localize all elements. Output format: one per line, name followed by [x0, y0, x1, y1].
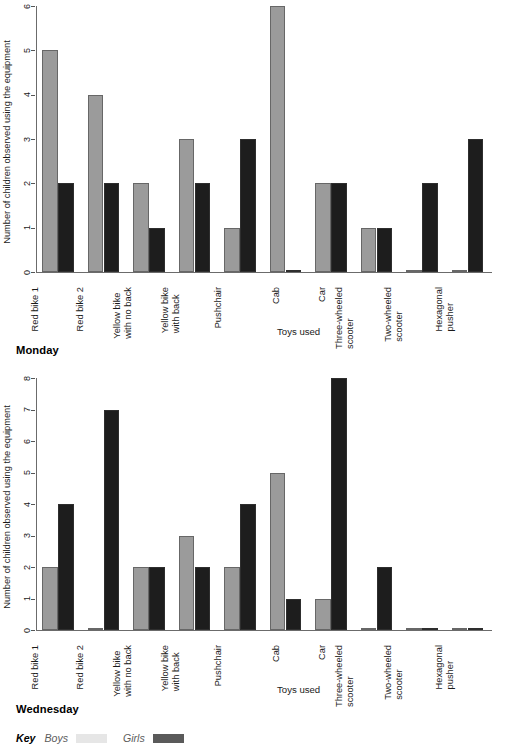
x-category-label-line: Yellow bike: [111, 287, 122, 339]
y-tick-mark: [31, 473, 35, 474]
bar-boys: [224, 228, 240, 272]
bar-girls: [286, 270, 302, 272]
x-category-label-line: Car: [317, 645, 328, 660]
legend-swatch-girls: [153, 734, 184, 743]
legend-item-boys: Boys: [44, 732, 107, 744]
x-category-label-line: Hexagonal: [434, 645, 445, 689]
bar-group: [133, 378, 165, 630]
y-tick-mark: [31, 536, 35, 537]
bar-group: [406, 6, 438, 272]
bar-group: [224, 6, 256, 272]
day-label-wednesday: Wednesday: [16, 703, 79, 715]
x-axis-title-monday: Toys used: [277, 326, 320, 337]
bar-boys: [361, 228, 377, 272]
legend-label-girls: Girls: [123, 732, 145, 744]
y-tick-mark: [31, 410, 35, 411]
bar-boys: [452, 270, 468, 272]
y-tick-mark: [31, 95, 35, 96]
day-label-monday: Monday: [16, 344, 59, 356]
bar-group: [179, 378, 211, 630]
bar-group: [179, 6, 211, 272]
bar-girls: [149, 228, 165, 272]
bar-group: [88, 378, 120, 630]
bar-girls: [422, 183, 438, 272]
chart-monday: Number of children observed using the eq…: [0, 6, 513, 278]
bar-group: [270, 378, 302, 630]
y-tick-mark: [31, 599, 35, 600]
y-tick-mark: [31, 272, 35, 273]
x-category-label-line: Red bike 1: [29, 287, 40, 331]
bar-boys: [270, 6, 286, 272]
legend-swatch-boys: [76, 734, 107, 743]
bar-boys: [315, 183, 331, 272]
bar-girls: [104, 183, 120, 272]
bar-girls: [468, 139, 484, 272]
bar-group: [42, 378, 74, 630]
bar-boys: [42, 567, 58, 630]
bar-boys: [88, 628, 104, 630]
legend-item-girls: Girls: [123, 732, 184, 744]
bar-girls: [58, 504, 74, 630]
x-category-label-line: Three-wheeled: [334, 645, 345, 707]
bar-boys: [406, 628, 422, 630]
x-category-label-line: Three-wheeled: [334, 287, 345, 349]
bar-group: [361, 378, 393, 630]
x-category-label-line: Two-wheeled: [383, 645, 394, 700]
bar-boys: [179, 139, 195, 272]
bar-girls: [377, 567, 393, 630]
bar-boys: [133, 567, 149, 630]
x-category-label-line: with back: [170, 645, 181, 691]
bar-group: [452, 378, 484, 630]
chart-wednesday: Number of children observed using the eq…: [0, 378, 513, 636]
x-category-label-line: with back: [170, 287, 181, 333]
bar-girls: [468, 628, 484, 630]
x-category-label-line: Cab: [270, 645, 281, 662]
x-category-label-line: Two-wheeled: [383, 287, 394, 342]
bar-girls: [286, 599, 302, 631]
legend-label-boys: Boys: [44, 732, 68, 744]
bar-girls: [240, 139, 256, 272]
x-category-label-line: Yellow bike: [111, 645, 122, 697]
x-category-label-line: scooter: [344, 645, 355, 707]
bar-boys: [224, 567, 240, 630]
bar-girls: [422, 628, 438, 630]
bar-group: [42, 6, 74, 272]
y-axis-label-wednesday: Number of children observed using the eq…: [0, 378, 14, 636]
x-category-label-line: scooter: [393, 645, 404, 700]
bar-girls: [104, 410, 120, 631]
y-tick-mark: [31, 504, 35, 505]
y-tick-mark: [31, 630, 35, 631]
bar-group: [224, 378, 256, 630]
bar-girls: [195, 567, 211, 630]
bar-group: [452, 6, 484, 272]
bar-girls: [331, 183, 347, 272]
legend-key: Key Boys Girls: [16, 732, 184, 744]
y-tick-mark: [31, 228, 35, 229]
y-tick-mark: [31, 50, 35, 51]
x-category-label-line: Hexagonal: [434, 287, 445, 331]
legend-title: Key: [16, 732, 35, 744]
bar-group: [315, 378, 347, 630]
y-tick-mark: [31, 139, 35, 140]
y-tick-mark: [31, 6, 35, 7]
bar-boys: [42, 50, 58, 272]
bar-boys: [315, 599, 331, 631]
y-axis-ticks-wednesday: 012345678: [16, 378, 32, 636]
x-category-label-line: Red bike 2: [75, 645, 86, 689]
bar-girls: [58, 183, 74, 272]
bar-boys: [452, 628, 468, 630]
figure-page: Number of children observed using the eq…: [0, 0, 513, 753]
bar-group: [88, 6, 120, 272]
bar-girls: [331, 378, 347, 630]
y-tick-mark: [31, 567, 35, 568]
x-category-label-line: Pushchair: [213, 287, 224, 328]
x-category-label-line: scooter: [393, 287, 404, 342]
y-tick-mark: [31, 441, 35, 442]
x-category-label-line: with no back: [122, 287, 133, 339]
x-category-label-line: Yellow bike: [160, 645, 171, 691]
bar-boys: [133, 183, 149, 272]
x-category-label-line: Red bike 1: [29, 645, 40, 689]
y-axis-label-monday: Number of children observed using the eq…: [0, 6, 14, 278]
bar-boys: [88, 95, 104, 272]
bar-boys: [406, 270, 422, 272]
